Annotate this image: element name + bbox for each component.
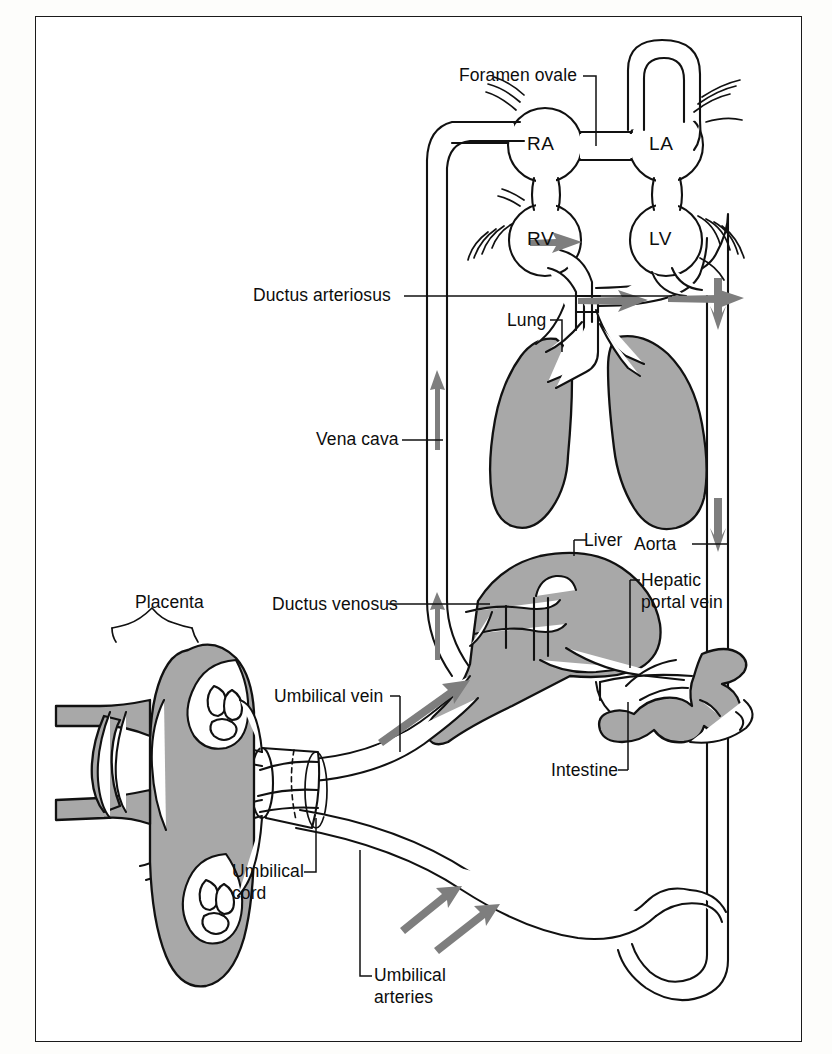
chamber-label-RA: RA xyxy=(527,134,555,154)
label-foramen-ovale: Foramen ovale xyxy=(459,65,577,85)
label-ductus-venosus: Ductus venosus xyxy=(272,594,398,614)
label-hepatic-portal-vein-line1: Hepatic xyxy=(641,570,701,590)
chamber-label-LA: LA xyxy=(649,134,673,154)
label-lung: Lung xyxy=(507,310,546,330)
label-ductus-arteriosus: Ductus arteriosus xyxy=(253,285,391,305)
fetal-circulation-diagram: .out{fill:none;stroke:#111;stroke-width:… xyxy=(0,0,832,1054)
chamber-label-LV: LV xyxy=(649,229,672,249)
label-liver: Liver xyxy=(584,530,622,550)
chamber-label-RV: RV xyxy=(527,229,554,249)
label-intestine: Intestine xyxy=(551,760,618,780)
label-aorta: Aorta xyxy=(634,534,676,554)
label-hepatic-portal-vein-line2: portal vein xyxy=(641,592,723,612)
diagram-artwork: .out{fill:none;stroke:#111;stroke-width:… xyxy=(0,0,832,1054)
label-umbilical-cord-line2: cord xyxy=(232,883,266,903)
label-vena-cava: Vena cava xyxy=(316,429,399,449)
label-placenta: Placenta xyxy=(135,592,204,612)
label-umbilical-cord-line1: Umbilical xyxy=(232,861,304,881)
label-umbilical-arteries-line2: arteries xyxy=(374,987,433,1007)
label-umbilical-vein: Umbilical vein xyxy=(274,686,383,706)
label-umbilical-arteries-line1: Umbilical xyxy=(374,965,446,985)
